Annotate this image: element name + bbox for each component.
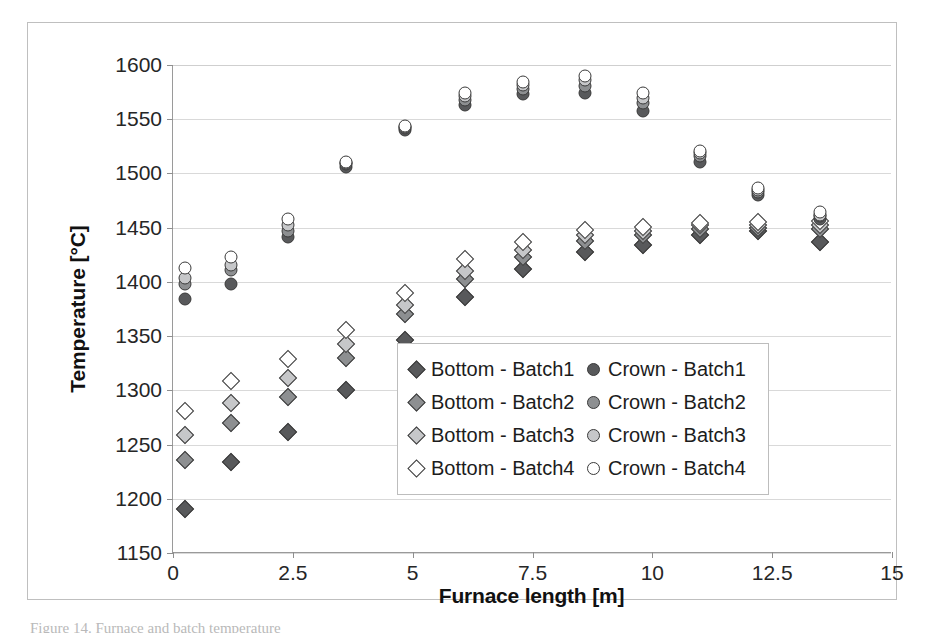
- diamond-marker-icon: [407, 393, 425, 411]
- data-point: [176, 426, 194, 444]
- y-tick-label: 1400: [115, 270, 162, 294]
- data-point: [221, 371, 239, 389]
- data-point: [221, 414, 239, 432]
- figure-caption: Figure 14. Furnace and batch temperature: [30, 620, 281, 633]
- x-tick-mark: [293, 552, 294, 558]
- data-point: [176, 402, 194, 420]
- y-tick-mark: [167, 445, 173, 446]
- gridline: [173, 499, 891, 500]
- y-tick-label: 1200: [115, 487, 162, 511]
- data-point: [694, 144, 707, 157]
- gridline: [173, 336, 891, 337]
- data-point: [279, 369, 297, 387]
- y-tick-label: 1350: [115, 324, 162, 348]
- gridline: [173, 65, 891, 66]
- y-tick-label: 1150: [117, 541, 162, 565]
- legend-label: Bottom - Batch2: [431, 391, 574, 414]
- data-point: [224, 278, 237, 291]
- y-tick-label: 1300: [115, 378, 162, 402]
- y-tick-mark: [167, 65, 173, 66]
- data-point: [456, 250, 474, 268]
- y-tick-mark: [167, 173, 173, 174]
- data-point: [579, 69, 592, 82]
- gridline: [173, 282, 891, 283]
- legend-label: Bottom - Batch4: [431, 457, 574, 480]
- data-point: [178, 261, 191, 274]
- data-point: [221, 453, 239, 471]
- diamond-marker-icon: [407, 459, 425, 477]
- x-tick-label: 12.5: [752, 561, 793, 585]
- data-point: [456, 288, 474, 306]
- legend-label: Crown - Batch4: [608, 457, 746, 480]
- y-tick-label: 1600: [115, 53, 162, 77]
- chart-frame: Temperature [°C] 11501200125013001350140…: [27, 22, 897, 600]
- x-tick-mark: [533, 552, 534, 558]
- data-point: [279, 422, 297, 440]
- data-point: [399, 119, 412, 132]
- chart-legend: Bottom - Batch1Crown - Batch1Bottom - Ba…: [397, 343, 769, 495]
- diamond-marker-icon: [407, 360, 425, 378]
- x-tick-mark: [652, 552, 653, 558]
- legend-entry[interactable]: Crown - Batch2: [587, 386, 758, 419]
- x-tick-mark: [892, 552, 893, 558]
- data-point: [516, 76, 529, 89]
- diamond-marker-icon: [407, 426, 425, 444]
- data-point: [636, 87, 649, 100]
- data-point: [224, 250, 237, 263]
- data-point: [336, 381, 354, 399]
- x-tick-mark: [413, 552, 414, 558]
- y-tick-mark: [167, 390, 173, 391]
- data-point: [178, 293, 191, 306]
- y-axis-title: Temperature [°C]: [64, 65, 92, 553]
- x-axis-title: Furnace length [m]: [172, 584, 891, 608]
- y-tick-label: 1450: [115, 216, 162, 240]
- x-tick-label: 15: [880, 561, 903, 585]
- x-tick-label: 5: [407, 561, 419, 585]
- circle-marker-icon: [587, 429, 600, 442]
- y-tick-mark: [167, 499, 173, 500]
- data-point: [751, 181, 764, 194]
- data-point: [282, 212, 295, 225]
- data-point: [459, 87, 472, 100]
- x-tick-label: 0: [167, 561, 179, 585]
- legend-label: Crown - Batch2: [608, 391, 746, 414]
- y-tick-label: 1550: [115, 107, 162, 131]
- legend-label: Crown - Batch3: [608, 424, 746, 447]
- x-tick-mark: [772, 552, 773, 558]
- legend-entry[interactable]: Bottom - Batch2: [410, 386, 581, 419]
- y-tick-mark: [167, 228, 173, 229]
- gridline: [173, 173, 891, 174]
- data-point: [221, 394, 239, 412]
- x-tick-label: 2.5: [278, 561, 307, 585]
- x-tick-label: 7.5: [518, 561, 547, 585]
- y-tick-mark: [167, 336, 173, 337]
- y-tick-label: 1500: [115, 161, 162, 185]
- legend-entry[interactable]: Bottom - Batch3: [410, 419, 581, 452]
- data-point: [339, 155, 352, 168]
- legend-entry[interactable]: Bottom - Batch4: [410, 452, 581, 485]
- data-point: [176, 451, 194, 469]
- y-tick-label: 1250: [115, 433, 162, 457]
- y-tick-mark: [167, 282, 173, 283]
- circle-marker-icon: [587, 462, 600, 475]
- circle-marker-icon: [587, 363, 600, 376]
- data-point: [814, 206, 827, 219]
- legend-entry[interactable]: Crown - Batch1: [587, 353, 758, 386]
- legend-label: Bottom - Batch1: [431, 358, 574, 381]
- legend-entry[interactable]: Bottom - Batch1: [410, 353, 581, 386]
- data-point: [176, 499, 194, 517]
- gridline: [173, 119, 891, 120]
- circle-marker-icon: [587, 396, 600, 409]
- legend-entry[interactable]: Crown - Batch3: [587, 419, 758, 452]
- y-tick-mark: [167, 119, 173, 120]
- figure-root: Temperature [°C] 11501200125013001350140…: [0, 0, 926, 633]
- x-tick-label: 10: [641, 561, 664, 585]
- data-point: [279, 350, 297, 368]
- legend-label: Crown - Batch1: [608, 358, 746, 381]
- legend-label: Bottom - Batch3: [431, 424, 574, 447]
- legend-entry[interactable]: Crown - Batch4: [587, 452, 758, 485]
- data-point: [396, 284, 414, 302]
- x-tick-mark: [173, 552, 174, 558]
